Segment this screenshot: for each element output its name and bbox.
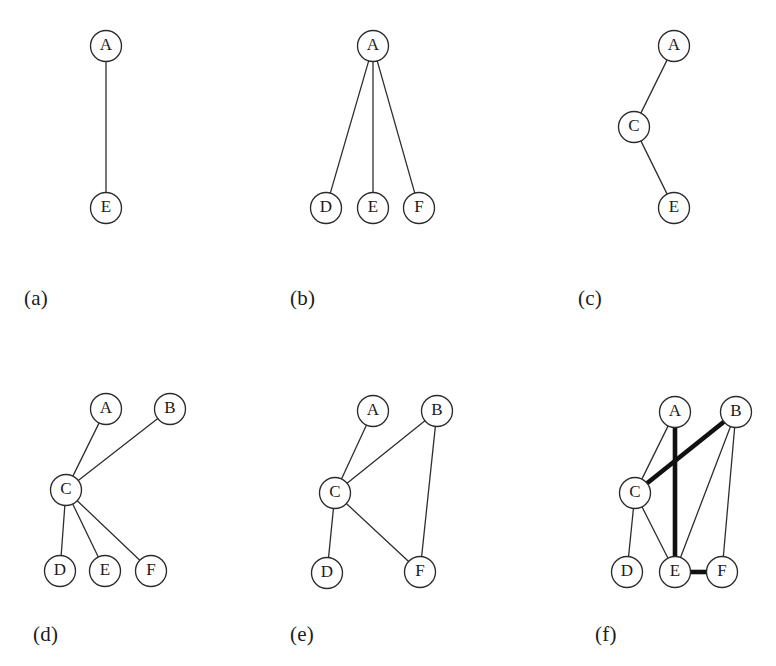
panel-b: ADEF bbox=[311, 31, 435, 224]
node-label-d: D bbox=[320, 197, 332, 216]
node-label-a: A bbox=[100, 35, 113, 54]
node-label-e: E bbox=[368, 197, 378, 216]
graph-edge-c-e bbox=[73, 504, 99, 557]
graph-node-d[interactable]: D bbox=[312, 558, 343, 589]
graph-edge-a-f bbox=[377, 61, 415, 193]
node-label-c: C bbox=[628, 116, 639, 135]
panel-caption-e: (e) bbox=[290, 622, 314, 647]
panel-d: ABCDEF bbox=[45, 394, 186, 587]
graph-edge-c-f bbox=[346, 504, 408, 562]
graph-node-f[interactable]: F bbox=[404, 193, 435, 224]
graph-node-a[interactable]: A bbox=[358, 31, 389, 62]
graph-node-f[interactable]: F bbox=[707, 557, 738, 588]
graph-node-d[interactable]: D bbox=[45, 556, 76, 587]
graph-node-e[interactable]: E bbox=[358, 193, 389, 224]
graph-node-d[interactable]: D bbox=[311, 193, 342, 224]
edge-group bbox=[330, 61, 414, 193]
node-label-f: F bbox=[415, 561, 424, 580]
graph-edge-a-c bbox=[73, 423, 99, 476]
graph-node-c[interactable]: C bbox=[320, 478, 351, 509]
graph-node-a[interactable]: A bbox=[91, 31, 122, 62]
panel-caption-b: (b) bbox=[290, 286, 315, 311]
graph-node-e[interactable]: E bbox=[90, 556, 121, 587]
node-label-d: D bbox=[321, 562, 333, 581]
panel-caption-f: (f) bbox=[595, 622, 617, 647]
graph-edge-c-d bbox=[629, 508, 634, 556]
graph-node-b[interactable]: B bbox=[721, 397, 752, 428]
graph-edge-c-e bbox=[642, 507, 668, 558]
node-label-b: B bbox=[730, 401, 741, 420]
node-label-f: F bbox=[414, 197, 423, 216]
node-label-e: E bbox=[669, 197, 679, 216]
node-label-a: A bbox=[367, 400, 380, 419]
graph-node-b[interactable]: B bbox=[422, 396, 453, 427]
graph-node-a[interactable]: A bbox=[358, 396, 389, 427]
node-label-a: A bbox=[669, 401, 682, 420]
node-label-a: A bbox=[367, 35, 380, 54]
graph-node-e[interactable]: E bbox=[91, 193, 122, 224]
graph-node-a[interactable]: A bbox=[659, 31, 690, 62]
graph-edge-a-d bbox=[330, 61, 368, 193]
graph-figure: AEADEFACEABCDEFABCDFABCDEF (a)(b)(c)(d)(… bbox=[0, 0, 776, 666]
graph-node-c[interactable]: C bbox=[51, 475, 82, 506]
graph-edge-b-f bbox=[723, 427, 734, 556]
graph-edge-c-e bbox=[641, 141, 667, 194]
graph-node-f[interactable]: F bbox=[136, 556, 167, 587]
graph-edge-c-f bbox=[77, 501, 140, 561]
node-label-d: D bbox=[54, 560, 66, 579]
panel-caption-c: (c) bbox=[578, 286, 602, 311]
panel-caption-d: (d) bbox=[33, 622, 58, 647]
node-label-c: C bbox=[629, 482, 640, 501]
panel-c: ACE bbox=[619, 31, 690, 224]
node-label-f: F bbox=[717, 561, 726, 580]
graph-node-c[interactable]: C bbox=[620, 478, 651, 509]
node-label-d: D bbox=[621, 561, 633, 580]
node-label-e: E bbox=[101, 197, 111, 216]
graph-edge-a-c bbox=[641, 60, 667, 113]
graph-edge-b-c bbox=[347, 421, 425, 484]
graph-node-c[interactable]: C bbox=[619, 112, 650, 143]
panel-caption-a: (a) bbox=[24, 286, 48, 311]
panel-a: AE bbox=[91, 31, 122, 224]
node-label-e: E bbox=[670, 561, 680, 580]
graph-edge-b-e bbox=[681, 426, 731, 557]
graph-node-a[interactable]: A bbox=[660, 397, 691, 428]
graph-node-b[interactable]: B bbox=[155, 394, 186, 425]
graph-edge-c-d bbox=[61, 505, 65, 555]
graph-edge-b-c bbox=[78, 419, 158, 481]
graph-edge-b-f bbox=[422, 426, 436, 556]
node-label-e: E bbox=[100, 560, 110, 579]
node-label-a: A bbox=[100, 398, 113, 417]
node-label-b: B bbox=[431, 400, 442, 419]
graph-node-f[interactable]: F bbox=[405, 557, 436, 588]
node-label-a: A bbox=[668, 35, 681, 54]
graph-node-a[interactable]: A bbox=[91, 394, 122, 425]
graph-node-e[interactable]: E bbox=[659, 193, 690, 224]
graph-node-d[interactable]: D bbox=[612, 557, 643, 588]
node-label-c: C bbox=[329, 482, 340, 501]
graph-canvas: AEADEFACEABCDEFABCDFABCDEF bbox=[0, 0, 776, 666]
panel-e: ABCDF bbox=[312, 396, 453, 589]
graph-edge-c-d bbox=[329, 508, 334, 557]
node-label-c: C bbox=[60, 479, 71, 498]
panel-f: ABCDEF bbox=[612, 397, 752, 588]
node-label-f: F bbox=[146, 560, 155, 579]
node-label-b: B bbox=[164, 398, 175, 417]
graph-node-e[interactable]: E bbox=[660, 557, 691, 588]
